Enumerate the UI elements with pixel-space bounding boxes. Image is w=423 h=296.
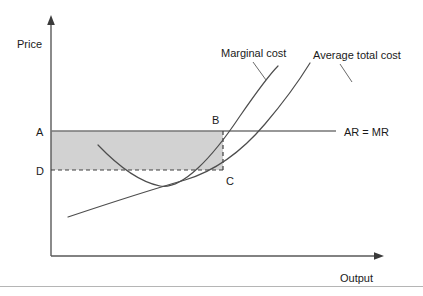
marginal-cost-leader-line <box>253 62 266 80</box>
point-label-b: B <box>212 114 219 126</box>
point-label-d: D <box>36 165 44 177</box>
average-total-cost-leader-line <box>340 64 352 82</box>
y-axis-arrow-icon <box>47 15 55 25</box>
diagram-canvas: Price Output Marginal cost Average total… <box>0 0 423 296</box>
marginal-cost-label: Marginal cost <box>221 47 286 59</box>
ar-mr-label: AR = MR <box>344 126 389 138</box>
x-axis-label: Output <box>340 272 373 284</box>
economics-diagram: Price Output Marginal cost Average total… <box>0 0 423 296</box>
point-label-c: C <box>226 175 234 187</box>
supernormal-profit-area <box>51 131 223 170</box>
average-total-cost-label: Average total cost <box>313 49 401 61</box>
x-axis-arrow-icon <box>374 252 384 260</box>
point-label-a: A <box>36 126 44 138</box>
y-axis-label: Price <box>17 38 42 50</box>
